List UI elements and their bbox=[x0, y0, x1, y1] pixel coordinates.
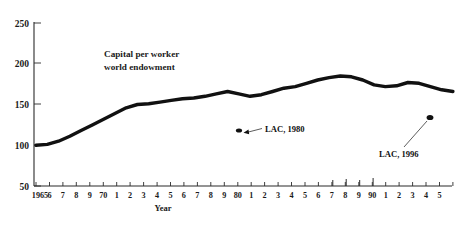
y-tick-label: 50 bbox=[20, 182, 30, 192]
x-tick-label: 7 bbox=[195, 191, 199, 200]
x-tick-label: 7 bbox=[330, 191, 334, 200]
x-tick-label: 70 bbox=[99, 191, 107, 200]
x-tick-label: 8 bbox=[74, 191, 78, 200]
x-tick-marks bbox=[36, 182, 453, 186]
y-tick-marks bbox=[34, 23, 41, 186]
x-tick-label: 90 bbox=[368, 191, 376, 200]
x-tick-label: 9 bbox=[222, 191, 226, 200]
lac-1980-label: LAC, 1980 bbox=[265, 124, 305, 134]
x-tick-label: 2 bbox=[263, 191, 267, 200]
x-tick-label: 8 bbox=[209, 191, 213, 200]
x-tick-label: 80 bbox=[234, 191, 242, 200]
x-tick-label: 1965 bbox=[32, 191, 48, 200]
x-tick-label: 4 bbox=[289, 191, 293, 200]
x-tick-marks-tall bbox=[333, 178, 373, 186]
series-label-line1: Capital per worker bbox=[104, 49, 179, 59]
chart-svg: 250 200 150 100 50 196567897012345678980… bbox=[0, 0, 461, 231]
x-axis-title: Year bbox=[155, 203, 172, 213]
x-tick-label: 6 bbox=[316, 191, 320, 200]
x-tick-label: 1 bbox=[115, 191, 119, 200]
x-tick-label: 2 bbox=[397, 191, 401, 200]
x-tick-label: 5 bbox=[437, 191, 441, 200]
lac-1996-marker bbox=[427, 115, 434, 120]
lac-1996-label: LAC, 1996 bbox=[379, 149, 419, 159]
x-tick-label: 9 bbox=[88, 191, 92, 200]
lac-1980-marker bbox=[236, 128, 242, 132]
x-tick-label: 5 bbox=[168, 191, 172, 200]
chart-figure: 250 200 150 100 50 196567897012345678980… bbox=[0, 0, 461, 231]
x-tick-label: 4 bbox=[424, 191, 428, 200]
y-tick-label: 100 bbox=[15, 141, 30, 151]
lac-1980-arrowhead bbox=[244, 130, 250, 135]
x-tick-label: 7 bbox=[61, 191, 65, 200]
x-tick-label: 9 bbox=[357, 191, 361, 200]
x-tick-label: 6 bbox=[47, 191, 51, 200]
x-tick-label: 8 bbox=[343, 191, 347, 200]
x-tick-label: 2 bbox=[128, 191, 132, 200]
x-tick-labels: 1965678970123456789801234567899012345 bbox=[32, 191, 442, 200]
x-tick-label: 6 bbox=[182, 191, 186, 200]
x-tick-label: 5 bbox=[303, 191, 307, 200]
y-tick-label: 150 bbox=[15, 100, 30, 110]
x-tick-label: 4 bbox=[155, 191, 159, 200]
y-tick-label: 250 bbox=[15, 19, 30, 29]
x-tick-label: 1 bbox=[384, 191, 388, 200]
x-tick-label: 3 bbox=[276, 191, 280, 200]
series-label-line2: world endowment bbox=[104, 62, 176, 72]
y-tick-label: 200 bbox=[15, 59, 30, 69]
x-tick-label: 3 bbox=[142, 191, 146, 200]
data-series-line bbox=[36, 76, 453, 145]
lac-1996-leader-line bbox=[404, 121, 427, 147]
x-tick-label: 1 bbox=[249, 191, 253, 200]
x-tick-label: 3 bbox=[411, 191, 415, 200]
